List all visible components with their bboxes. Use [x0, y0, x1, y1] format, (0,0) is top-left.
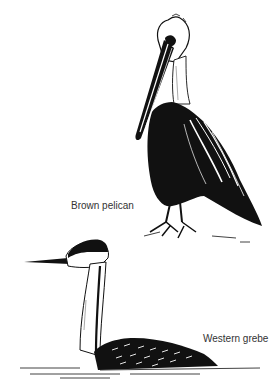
brown-pelican-label: Brown pelican	[71, 200, 134, 211]
bird-illustration: Brown pelican Western grebe	[0, 0, 279, 392]
western-grebe-label: Western grebe	[203, 333, 268, 344]
